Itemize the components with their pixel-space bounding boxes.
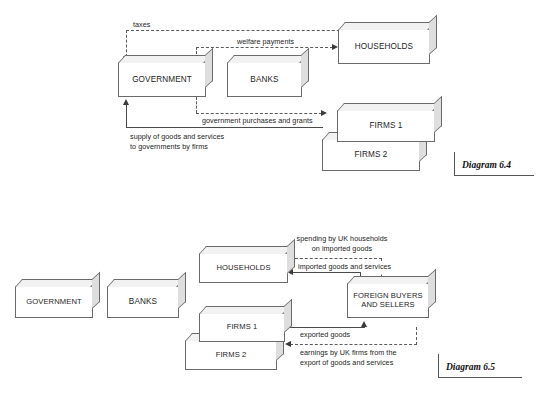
box-firms1-64[interactable]: FIRMS 1 [337,110,435,142]
welfare-flow-line [196,47,333,48]
spending-imported-label: spending by UK households on imported go… [282,234,402,253]
box-government-65-label: GOVERNMENT [23,298,84,307]
box-banks-64-label: BANKS [247,75,281,84]
box-foreign-buyers-65[interactable]: FOREIGN BUYERS AND SELLERS [347,283,429,318]
diagram-tag-65-label: Diagram 6.5 [446,362,495,372]
box-firms2-65[interactable]: FIRMS 2 [185,340,277,370]
box-firms1-65-label: FIRMS 1 [224,323,261,332]
spending-imported-line-horizontal [290,258,382,259]
box-government-65[interactable]: GOVERNMENT [15,286,93,318]
box-foreign-buyers-65-label: FOREIGN BUYERS AND SELLERS [348,292,428,309]
diagram-canvas: taxes welfare payments government purcha… [0,0,539,397]
box-banks-65[interactable]: BANKS [107,286,179,318]
gov-purchases-line [196,113,322,114]
box-government-64[interactable]: GOVERNMENT [118,62,206,97]
gov-purchases-riser [196,97,197,113]
diagram-tag-64-label: Diagram 6.4 [462,160,511,170]
box-banks-64[interactable]: BANKS [227,62,302,97]
earnings-exports-label: earnings by UK firms from the export of … [300,348,397,367]
taxes-label: taxes [133,20,150,30]
supply-goods-line-horizontal [126,127,323,128]
supply-goods-line-vertical [126,103,127,128]
exported-goods-label: exported goods [300,330,350,340]
exported-goods-line-horizontal [285,327,365,328]
box-households-64[interactable]: HOUSEHOLDS [338,29,430,64]
supply-goods-arrowhead [123,99,129,105]
earnings-exports-line-vertical [416,327,417,345]
diagram-tag-64: Diagram 6.4 [454,152,534,176]
imported-goods-label: imported goods and services [298,262,391,272]
box-firms2-64[interactable]: FIRMS 2 [322,139,420,171]
box-households-65-label: HOUSEHOLDS [213,264,273,273]
box-government-64-label: GOVERNMENT [129,75,195,84]
earnings-exports-line-horizontal [290,344,417,345]
box-firms2-65-label: FIRMS 2 [213,351,250,360]
gov-purchases-label: government purchases and grants [202,116,313,126]
box-firms1-64-label: FIRMS 1 [367,121,406,130]
imported-goods-line-horizontal [292,272,361,273]
box-households-64-label: HOUSEHOLDS [352,42,416,51]
box-households-65[interactable]: HOUSEHOLDS [199,253,288,283]
exported-goods-arrowhead [361,321,367,327]
box-banks-65-label: BANKS [126,297,160,306]
gov-purchases-arrowhead [321,110,327,116]
welfare-payments-label: welfare payments [237,37,294,47]
earnings-exports-arrowhead [285,341,291,347]
supply-goods-label: supply of goods and services to governme… [130,132,224,151]
diagram-tag-65: Diagram 6.5 [438,354,522,378]
box-firms2-64-label: FIRMS 2 [352,150,391,159]
box-firms1-65[interactable]: FIRMS 1 [199,313,285,342]
